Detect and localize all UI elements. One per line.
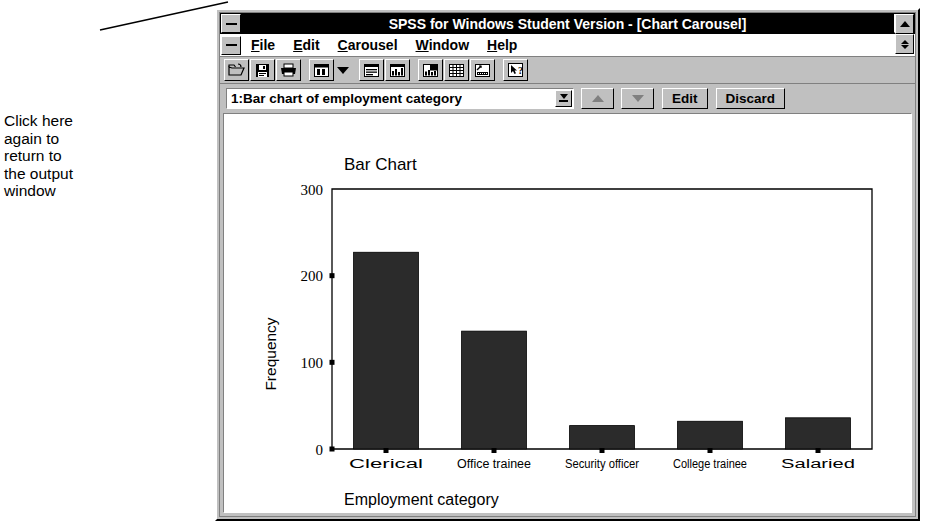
- chart-selector-value: 1:Bar chart of employment category: [227, 91, 462, 106]
- application-window-inner: SPSS for Windows Student Version - [Char…: [219, 12, 916, 517]
- edit-button[interactable]: Edit: [662, 88, 708, 109]
- title-bar: SPSS for Windows Student Version - [Char…: [220, 13, 915, 34]
- grid-icon[interactable]: [444, 59, 469, 81]
- screenshot-root: Click here again to return to the output…: [0, 0, 927, 529]
- combo-arrow-icon[interactable]: [555, 90, 572, 107]
- svg-text:College trainee: College trainee: [673, 457, 747, 471]
- document-system-menu-icon[interactable]: [221, 36, 241, 55]
- open-folder-icon[interactable]: [224, 59, 249, 81]
- svg-text:0: 0: [316, 442, 324, 458]
- menu-item-file[interactable]: File: [242, 37, 284, 53]
- svg-text:Clerical: Clerical: [349, 457, 423, 471]
- printer-icon[interactable]: [276, 59, 301, 81]
- annotation-leader-line: [0, 0, 230, 60]
- window-control-arrows: [895, 14, 914, 56]
- bar-chart: Bar Chart0100200300FrequencyClericalOffi…: [224, 114, 912, 513]
- svg-text:200: 200: [301, 268, 324, 284]
- output-window-icon[interactable]: [359, 59, 384, 81]
- next-chart-button[interactable]: [621, 88, 654, 109]
- svg-text:Security officer: Security officer: [565, 457, 639, 471]
- svg-text:?: ?: [518, 65, 523, 76]
- toolbar: ?: [220, 57, 915, 84]
- carousel-control-bar: 1:Bar chart of employment category Edit …: [220, 84, 915, 112]
- chevron-down-icon[interactable]: [335, 59, 351, 81]
- new-chart-icon[interactable]: [418, 59, 443, 81]
- annotation-text: Click here again to return to the output…: [4, 112, 134, 200]
- svg-text:Bar Chart: Bar Chart: [344, 155, 417, 174]
- window-title: SPSS for Windows Student Version - [Char…: [242, 16, 893, 32]
- chart-client-area: Bar Chart0100200300FrequencyClericalOffi…: [223, 113, 912, 513]
- maximize-icon[interactable]: [895, 14, 914, 34]
- chart-window-icon[interactable]: [385, 59, 410, 81]
- svg-text:Salaried: Salaried: [781, 457, 855, 471]
- discard-button[interactable]: Discard: [716, 88, 786, 109]
- spss-application-window: SPSS for Windows Student Version - [Char…: [215, 8, 920, 521]
- syntax-icon[interactable]: [470, 59, 495, 81]
- help-pointer-icon[interactable]: ?: [503, 59, 528, 81]
- menu-item-carousel[interactable]: Carousel: [329, 37, 407, 53]
- menu-item-edit[interactable]: Edit: [284, 37, 328, 53]
- svg-text:300: 300: [301, 182, 324, 198]
- svg-text:Employment category: Employment category: [344, 491, 499, 508]
- menu-item-window[interactable]: Window: [407, 37, 479, 53]
- chart-selector-combo[interactable]: 1:Bar chart of employment category: [226, 88, 574, 109]
- save-disk-icon[interactable]: [250, 59, 275, 81]
- system-menu-icon[interactable]: [221, 14, 241, 33]
- restore-icon[interactable]: [895, 34, 914, 54]
- svg-text:Office trainee: Office trainee: [457, 457, 531, 471]
- svg-text:100: 100: [301, 355, 324, 371]
- window-list-icon[interactable]: [309, 59, 334, 81]
- svg-text:Frequency: Frequency: [262, 317, 279, 390]
- menu-item-help[interactable]: Help: [478, 37, 526, 53]
- previous-chart-button[interactable]: [581, 88, 614, 109]
- menu-bar: File Edit Carousel Window Help: [220, 34, 915, 57]
